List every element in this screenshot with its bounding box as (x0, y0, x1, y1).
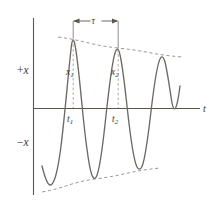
period-arrowhead-left (73, 19, 80, 24)
figure-canvas: +x −x t τ x1 x2 t1 t2 (0, 0, 219, 204)
y-axis-positive-label: +x (17, 64, 30, 76)
time-1-label: t1 (67, 114, 73, 126)
y-axis-negative-label: −x (17, 136, 30, 148)
period-label: τ (92, 16, 96, 26)
damped-wave-curve (42, 40, 180, 185)
damped-oscillation-figure: +x −x t τ x1 x2 t1 t2 (0, 0, 219, 204)
amplitude-1-label: x1 (65, 67, 74, 79)
period-arrowhead-right (112, 19, 118, 24)
lower-envelope-curve (42, 168, 160, 192)
time-2-label: t2 (112, 114, 119, 126)
x-axis-label: t (203, 103, 206, 114)
